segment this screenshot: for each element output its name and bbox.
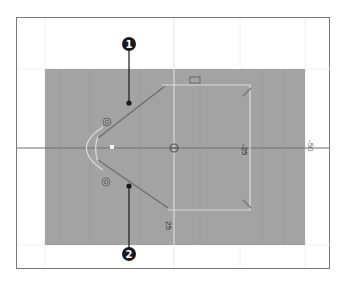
callout-2-target-dot [126,183,131,188]
dimension-label-neg25[interactable]: -25 [240,144,249,156]
arc-center-point[interactable] [110,145,114,149]
dimension-label-25[interactable]: 25 [164,221,173,230]
sketch-region [45,69,305,245]
callout-1-number: 1 [126,39,133,50]
callout-2-number: 2 [126,249,133,260]
dimension-label-neg50[interactable]: -50 [306,140,315,152]
callout-1-target-dot [126,100,131,105]
sketch-canvas: -25 -50 25 1 2 [0,0,348,305]
